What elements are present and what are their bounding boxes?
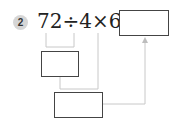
arrow-up-icon (142, 37, 148, 43)
step2-box[interactable] (54, 92, 103, 118)
problem-number-badge: 2 (13, 15, 28, 30)
step1-box[interactable] (41, 51, 79, 77)
answer-box[interactable] (119, 10, 169, 36)
